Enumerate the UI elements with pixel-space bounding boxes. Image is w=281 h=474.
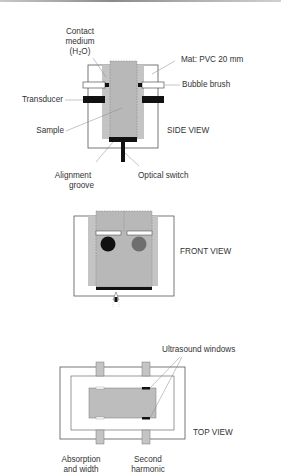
label-line: harmonic (127, 465, 169, 474)
label-line: and width (56, 465, 106, 474)
top-view-drawing (60, 357, 185, 444)
label-ultrasound-windows: Ultrasound windows (162, 345, 235, 355)
label-line: Alignment (50, 171, 96, 181)
label-optical-switch: Optical switch (138, 171, 189, 181)
transducer-right (142, 96, 164, 103)
transducer-left (83, 96, 105, 103)
optical-switch (121, 142, 125, 162)
label-sample: Sample (20, 126, 64, 136)
front-view-title: FRONT VIEW (180, 247, 231, 257)
seal-right (138, 83, 142, 87)
label-second-harmonic: Second harmonic (127, 455, 169, 474)
label-line: groove (50, 181, 96, 191)
top-view-title: TOP VIEW (193, 428, 233, 438)
label-mat: Mat: PVC 20 mm (181, 55, 243, 65)
top-sample (89, 388, 156, 418)
front-base-plate (96, 287, 152, 290)
sample (110, 61, 137, 140)
bubble-brush-right (142, 82, 164, 88)
front-brush-left (96, 231, 121, 235)
front-brush-right (127, 231, 152, 235)
label-absorption-width: Absorption and width (56, 455, 106, 474)
label-line: Second (127, 455, 169, 465)
label-contact-medium: Contact medium (H₂O) (58, 27, 102, 57)
alignment-plate (109, 137, 137, 142)
label-transducer: Transducer (10, 95, 63, 105)
label-line: Absorption (56, 455, 106, 465)
label-bubble-brush: Bubble brush (182, 80, 230, 90)
label-line: medium (58, 37, 102, 47)
bubble-brush-left (83, 82, 105, 88)
label-line: Contact (58, 27, 102, 37)
transducer-grey (132, 237, 147, 252)
diagram-canvas (0, 0, 281, 474)
side-view-title: SIDE VIEW (167, 126, 209, 136)
front-view-drawing (74, 211, 174, 308)
seal-left (105, 83, 109, 87)
label-alignment-groove: Alignment groove (50, 171, 96, 191)
side-view-drawing (65, 58, 180, 166)
label-line: (H₂O) (58, 47, 102, 57)
transducer-black (101, 237, 116, 252)
